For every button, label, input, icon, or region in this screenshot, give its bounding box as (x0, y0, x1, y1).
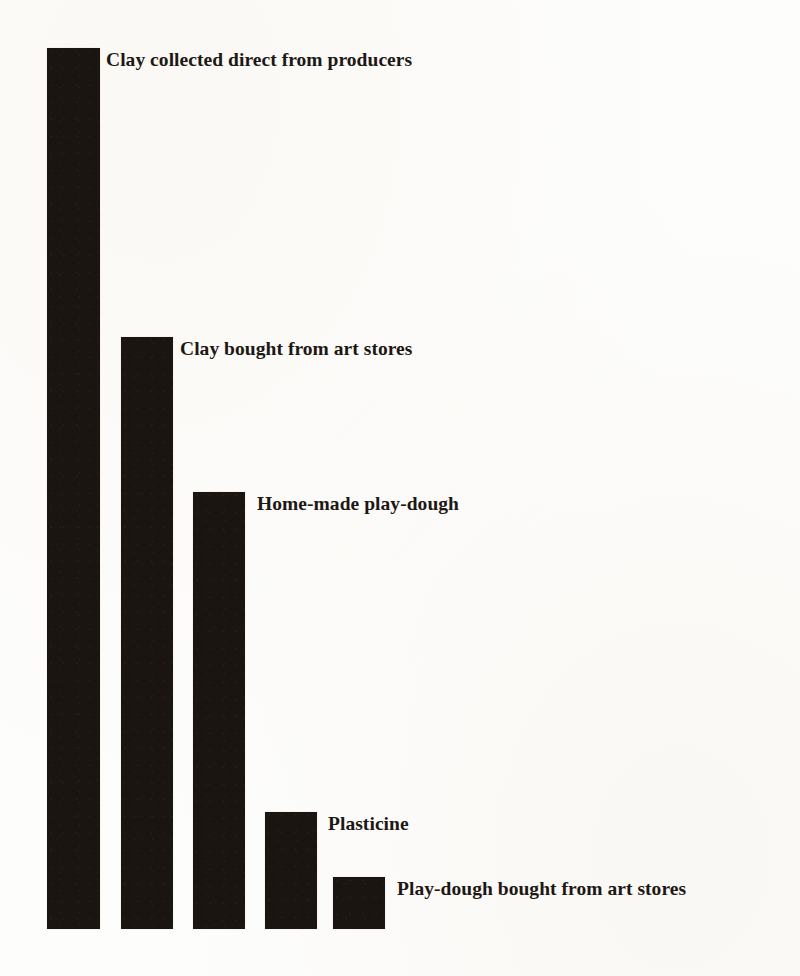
chart-page: Clay collected direct from producers Cla… (0, 0, 800, 976)
bar-plasticine (265, 812, 317, 929)
bar-clay-collected-direct-from-producers (47, 48, 100, 929)
bar-play-dough-bought-from-art-stores (333, 877, 385, 929)
bar-label-clay-bought-from-art-stores: Clay bought from art stores (180, 339, 412, 359)
bar-chart-plot-area: Clay collected direct from producers Cla… (0, 0, 800, 976)
bar-label-plasticine: Plasticine (328, 814, 409, 834)
bar-label-clay-collected-direct-from-producers: Clay collected direct from producers (106, 50, 412, 70)
bar-label-home-made-play-dough: Home-made play-dough (257, 494, 459, 514)
bar-clay-bought-from-art-stores (121, 337, 173, 929)
bar-home-made-play-dough (193, 492, 245, 929)
bar-label-play-dough-bought-from-art-stores: Play-dough bought from art stores (397, 879, 686, 899)
